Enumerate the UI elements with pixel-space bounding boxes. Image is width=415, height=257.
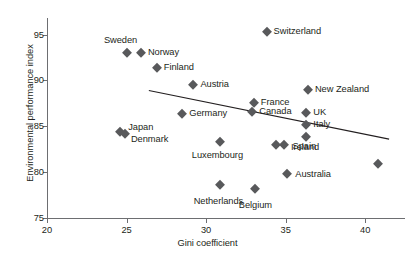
data-point-marker [177,109,187,119]
data-point-label: UK [313,107,326,117]
y-tick-label: 90 [34,75,44,85]
x-tick-mark [286,218,287,223]
data-point-label: Germany [189,108,227,118]
y-tick-label: 80 [34,167,44,177]
data-point-label: Austria [200,79,229,89]
x-tick-mark [365,218,366,223]
x-tick-mark [47,218,48,223]
data-point-marker [215,137,225,147]
y-tick-label: 95 [34,30,44,40]
data-point-marker [188,80,198,90]
data-point-label: New Zealand [315,84,369,94]
x-tick-label: 30 [201,225,211,235]
y-tick-label: 75 [34,213,44,223]
data-point-marker [373,159,383,169]
x-tick-mark [127,218,128,223]
x-tick-mark [206,218,207,223]
data-point-marker [271,139,281,149]
x-tick-label: 40 [360,225,370,235]
data-point-label: Denmark [131,134,168,144]
data-point-label: Finland [164,62,194,72]
x-tick-label: 25 [121,225,131,235]
y-axis-title: Environmental performance index [25,13,35,213]
data-point-label: Luxembourg [192,150,243,160]
data-point-marker [303,85,313,95]
scatter-chart: Environmental performance index Gini coe… [0,0,415,257]
x-tick-label: 20 [42,225,52,235]
data-point-label: Italy [313,119,330,129]
data-point-marker [247,107,257,117]
y-axis-line [47,18,48,218]
data-point-label: Canada [259,106,291,116]
x-axis-title: Gini coefficient [0,238,415,248]
data-point-label: Norway [148,47,179,57]
data-point-label: Belgium [239,200,272,210]
data-point-label: Netherlands [194,196,244,206]
data-point-label: Sweden [104,35,137,45]
data-point-marker [301,120,311,130]
x-axis-line [47,218,405,219]
data-point-marker [215,180,225,190]
data-point-marker [301,108,311,118]
data-point-label: Japan [128,122,153,132]
data-point-marker [152,63,162,73]
plot-area: 7580859095 2025303540 SwedenNorwayFinlan… [47,18,405,218]
data-point-marker [261,27,271,37]
data-point-label: Ireland [291,142,319,152]
x-tick-label: 35 [280,225,290,235]
data-point-marker [250,183,260,193]
data-point-marker [136,48,146,58]
data-point-label: Australia [295,169,331,179]
y-tick-label: 85 [34,121,44,131]
data-point-marker [282,169,292,179]
data-point-label: Switzerland [274,26,322,36]
data-point-marker [121,48,131,58]
